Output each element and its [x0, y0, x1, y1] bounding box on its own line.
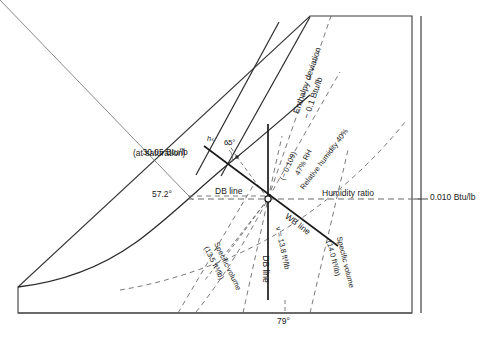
enthalpy-saturation-note: (at saturation) [133, 148, 185, 159]
dry-bulb-temp-label: 79° [277, 316, 290, 327]
psychrometric-chart: 30.05 Btu/lb (at saturation) hₛ 65° 57.2… [0, 0, 490, 339]
wet-bulb-angle-label: 65° [224, 138, 235, 147]
enthalpy-symbol-label: hₛ [207, 134, 214, 143]
dew-point-label: 57.2° [152, 189, 172, 200]
state-point-marker [265, 196, 271, 202]
enthalpy-scale-line-outer [196, 22, 279, 175]
db-line-label-lower: DB line [261, 255, 272, 282]
chart-canvas [0, 0, 490, 339]
humidity-ratio-label: Humidity ratio [322, 188, 374, 199]
wet-bulb-saturation-point [235, 155, 238, 158]
db-line-label-upper: DB line [215, 186, 242, 197]
specific-volume-138-line-upper [268, 136, 282, 199]
humidity-ratio-value-label: 0.010 Btu/lb [430, 192, 475, 203]
